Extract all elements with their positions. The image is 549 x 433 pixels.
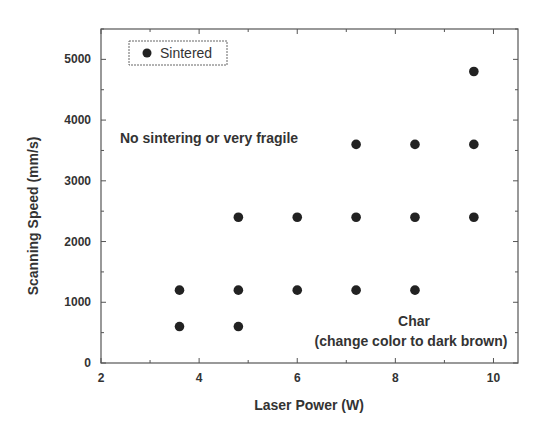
- x-tick-label: 2: [98, 371, 105, 385]
- axis-ticks: [101, 29, 518, 363]
- data-point: [410, 212, 420, 222]
- data-point: [175, 285, 185, 295]
- data-point: [234, 212, 244, 222]
- annotation-char: Char: [398, 313, 430, 329]
- x-axis-title: Laser Power (W): [254, 397, 364, 413]
- data-point: [410, 140, 420, 150]
- y-tick-label: 0: [84, 356, 91, 370]
- data-point: [351, 140, 361, 150]
- y-tick-label: 1000: [64, 295, 91, 309]
- data-point: [469, 67, 479, 77]
- data-point: [351, 285, 361, 295]
- scatter-chart: 246810010002000300040005000 Sintered No …: [0, 0, 549, 433]
- legend: Sintered: [129, 41, 227, 65]
- data-point: [234, 285, 244, 295]
- y-tick-label: 2000: [64, 235, 91, 249]
- data-point: [410, 285, 420, 295]
- data-points: [175, 67, 479, 332]
- data-point: [292, 285, 302, 295]
- annotation-no-sintering: No sintering or very fragile: [120, 130, 298, 146]
- data-point: [292, 212, 302, 222]
- x-tick-label: 4: [196, 371, 203, 385]
- data-point: [469, 140, 479, 150]
- plot-frame: [101, 29, 518, 363]
- y-axis-title: Scanning Speed (mm/s): [25, 137, 41, 296]
- data-point: [469, 212, 479, 222]
- data-point: [175, 322, 185, 332]
- data-point: [234, 322, 244, 332]
- y-tick-label: 4000: [64, 113, 91, 127]
- y-tick-label: 3000: [64, 174, 91, 188]
- data-point: [351, 212, 361, 222]
- x-tick-label: 6: [294, 371, 301, 385]
- x-tick-label: 8: [392, 371, 399, 385]
- legend-marker-icon: [143, 49, 152, 58]
- annotation-char-detail: (change color to dark brown): [315, 333, 508, 349]
- y-tick-label: 5000: [64, 52, 91, 66]
- legend-label: Sintered: [160, 45, 212, 61]
- x-tick-label: 10: [487, 371, 501, 385]
